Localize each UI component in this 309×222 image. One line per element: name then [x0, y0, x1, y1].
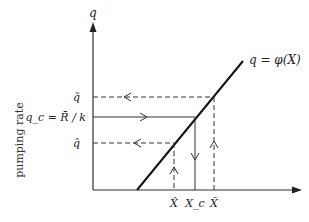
phi-curve [137, 61, 243, 190]
y-axis [90, 22, 97, 190]
pumping-rate-diagram: q q = φ(X) q̃ q_c = R̄ / k q̂ X̂ X_c X̃ … [0, 0, 309, 222]
q-c-label: q_c = R̄ / k [25, 111, 86, 124]
x-hat-label: X̂ [169, 197, 179, 210]
q-tilde-label: q̃ [73, 91, 80, 104]
curve-label: q = φ(X) [249, 53, 301, 67]
y-axis-label: q [89, 6, 97, 20]
q-tilde-guide [93, 93, 218, 190]
y-axis-arrow-icon [90, 22, 97, 32]
x-c-label: X_c [184, 197, 205, 210]
q-hat-label: q̂ [73, 137, 80, 150]
q-hat-guide [93, 139, 178, 190]
pumping-rate-label: pumping rate [13, 102, 26, 178]
x-axis-arrow-icon [292, 187, 302, 194]
x-axis [93, 187, 302, 194]
x-tilde-label: X̃ [209, 197, 219, 210]
